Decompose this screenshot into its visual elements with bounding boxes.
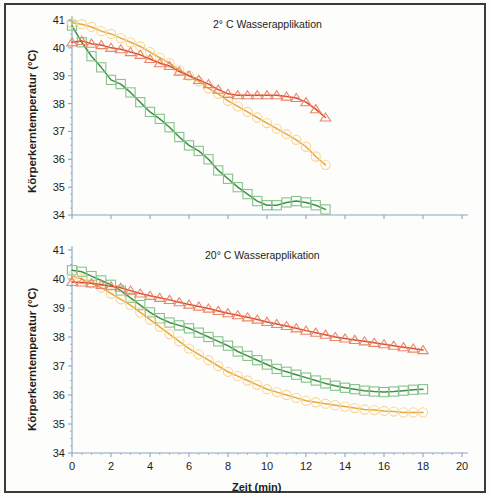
y-tick-label: 38 — [53, 331, 65, 343]
x-tick-label: 10 — [261, 460, 273, 472]
x-tick-label: 2 — [108, 460, 114, 472]
series-line — [72, 26, 326, 210]
y-tick-label: 41 — [53, 14, 65, 26]
series-orange-circles — [67, 272, 427, 418]
y-tick-label: 34 — [53, 447, 65, 459]
y-tick-label: 37 — [53, 360, 65, 372]
y-tick-label: 40 — [53, 273, 65, 285]
x-tick-label: 12 — [300, 460, 312, 472]
chart-title-top: 2° C Wasserapplikation — [213, 18, 322, 30]
chart-title-bottom: 20° C Wasserapplikation — [205, 249, 320, 261]
x-tick-label: 18 — [417, 460, 429, 472]
y-axis-label-top: Körperkerntemperatur (°C) — [26, 50, 38, 193]
y-tick-label: 35 — [53, 418, 65, 430]
figure-container: 3435363738394041 Körperkerntemperatur (°… — [0, 0, 490, 499]
y-tick-label: 35 — [53, 181, 65, 193]
y-tick-label: 36 — [53, 389, 65, 401]
x-tick-label: 20 — [456, 460, 468, 472]
series-red-triangles — [67, 277, 428, 353]
y-tick-label: 34 — [53, 209, 65, 221]
x-tick-label: 16 — [378, 460, 390, 472]
x-tick-label: 4 — [147, 460, 153, 472]
y-tick-label: 36 — [53, 153, 65, 165]
y-axis-label-bottom: Körperkerntemperatur (°C) — [26, 288, 38, 431]
x-tick-label: 14 — [339, 460, 351, 472]
x-tick-label: 6 — [186, 460, 192, 472]
plot-area-top: 3435363738394041 — [0, 0, 490, 240]
y-tick-label: 37 — [53, 125, 65, 137]
y-tick-label: 40 — [53, 42, 65, 54]
x-axis-label: Zeit (min) — [232, 481, 282, 493]
x-tick-label: 0 — [69, 460, 75, 472]
series-line — [72, 282, 423, 350]
series-green-squares — [67, 266, 427, 397]
y-tick-label: 41 — [53, 244, 65, 256]
x-tick-label: 8 — [225, 460, 231, 472]
y-tick-label: 39 — [53, 302, 65, 314]
y-tick-label: 39 — [53, 70, 65, 82]
plot-area-bottom: 343536373839404102468101214161820 — [0, 238, 490, 499]
y-tick-label: 38 — [53, 98, 65, 110]
chart-panel-top: 3435363738394041 Körperkerntemperatur (°… — [0, 0, 490, 240]
chart-panel-bottom: 343536373839404102468101214161820 Körper… — [0, 238, 490, 499]
